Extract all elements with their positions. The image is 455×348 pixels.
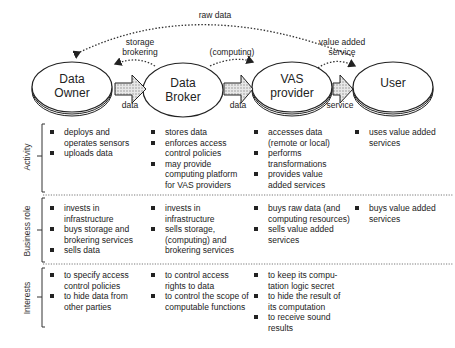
list-item: sells value added services — [252, 224, 352, 245]
cell-interests-vas-provider: to keep its compu-tation logic secret to… — [252, 270, 348, 333]
list-item: to control access rights to data — [149, 270, 249, 291]
row-brackets — [37, 124, 45, 327]
flow-label-data-1: data — [110, 100, 150, 110]
cell-interests-data-owner: to specify access control policies to hi… — [48, 270, 140, 312]
cell-interests-data-broker: to control access rights to data to cont… — [149, 270, 249, 312]
cell-business-data-broker: invests in infrastructure sells storage,… — [149, 203, 241, 256]
flow-label-line: service — [312, 47, 372, 57]
node-label-line: User — [368, 76, 418, 90]
service-arrow — [333, 75, 353, 103]
node-label-user: User — [368, 76, 418, 90]
list-item: buys raw data (and computing resources) — [252, 203, 352, 224]
storage-brokering-arrow — [115, 60, 155, 66]
cell-activity-data-broker: stores data enforces access control poli… — [149, 127, 241, 190]
cell-activity-user: uses value added services — [353, 127, 453, 148]
list-item: to control the scope of computable funct… — [149, 291, 249, 312]
list-item: invests in infrastructure — [149, 203, 241, 224]
list-item: buys value added services — [353, 203, 453, 224]
node-label-vas-provider: VAS provider — [262, 72, 322, 100]
cell-activity-data-owner: deploys and operates sensors uploads dat… — [48, 127, 138, 159]
node-label-line: provider — [262, 86, 322, 100]
flow-label-storage-brokering: storage brokering — [115, 37, 165, 57]
flow-label-computing: (computing) — [202, 47, 262, 57]
row-title-activity: Activity — [22, 127, 32, 187]
flow-label-line: value added — [312, 37, 372, 47]
node-label-line: Broker — [158, 90, 208, 104]
flow-label-raw-data: raw data — [185, 10, 245, 20]
cell-activity-vas-provider: accesses data (remote or local) performs… — [252, 127, 344, 190]
cell-business-vas-provider: buys raw data (and computing resources) … — [252, 203, 352, 245]
node-label-line: VAS — [262, 72, 322, 86]
list-item: enforces access control policies — [149, 138, 241, 159]
list-item: may provide computing platform for VAS p… — [149, 159, 241, 191]
node-label-line: Data — [158, 76, 208, 90]
list-item: to hide the result of its computation — [252, 291, 348, 312]
data-arrow-1 — [115, 75, 146, 103]
list-item: to hide data from other parties — [48, 291, 140, 312]
row-title-interests: Interests — [22, 268, 32, 328]
list-item: deploys and operates sensors — [48, 127, 138, 148]
list-item: to keep its compu-tation logic secret — [252, 270, 348, 291]
flow-label-line: brokering — [115, 47, 165, 57]
computing-arrow — [210, 59, 253, 66]
list-item: sells storage, (computing) and brokering… — [149, 224, 241, 256]
list-item: sells data — [48, 245, 144, 256]
list-item: accesses data (remote or local) — [252, 127, 344, 148]
list-item: buys storage and brokering services — [48, 224, 144, 245]
flow-label-service: service — [320, 100, 360, 110]
list-item: performs transformations — [252, 148, 344, 169]
list-item: to specify access control policies — [48, 270, 140, 291]
value-added-arrow — [318, 61, 355, 68]
flow-label-value-added-service: value added service — [312, 37, 372, 57]
cell-business-data-owner: invests in infrastructure buys storage a… — [48, 203, 144, 256]
flow-label-line: storage — [115, 37, 165, 47]
node-label-data-owner: Data Owner — [47, 72, 97, 100]
list-item: invests in infrastructure — [48, 203, 144, 224]
node-label-data-broker: Data Broker — [158, 76, 208, 104]
flow-label-data-2: data — [218, 100, 258, 110]
list-item: to receive sound results — [252, 312, 348, 333]
cell-business-user: buys value added services — [353, 203, 453, 224]
list-item: stores data — [149, 127, 241, 138]
list-item: uses value added services — [353, 127, 453, 148]
list-item: provides value added services — [252, 169, 344, 190]
data-arrow-2 — [224, 75, 253, 103]
list-item: uploads data — [48, 148, 138, 159]
row-title-business-role: Business role — [22, 191, 32, 271]
node-label-line: Owner — [47, 86, 97, 100]
node-label-line: Data — [47, 72, 97, 86]
